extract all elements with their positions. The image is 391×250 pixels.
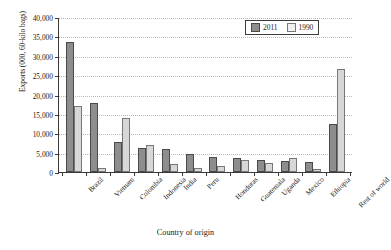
y-axis-tick	[55, 134, 59, 135]
x-axis-label-peru: Peru	[205, 175, 221, 191]
y-axis-tick-label: 40,000	[33, 14, 53, 23]
bar-1990-rest-of-world[interactable]	[337, 69, 345, 172]
bar-group	[86, 18, 110, 172]
bar-group	[301, 18, 325, 172]
bar-2011-indonesia[interactable]	[138, 148, 146, 172]
y-axis-tick-label: 5,000	[36, 149, 53, 158]
y-axis-tick	[55, 154, 59, 155]
bar-group	[110, 18, 134, 172]
bar-1990-guatemala[interactable]	[241, 160, 249, 172]
x-axis-label-honduras: Honduras	[233, 175, 259, 201]
bar-1990-colombia[interactable]	[122, 118, 130, 172]
y-axis-tick-label: 0	[49, 169, 53, 178]
legend-swatch-1990-icon	[287, 23, 296, 32]
bar-1990-brazil[interactable]	[74, 106, 82, 172]
legend-label-2011: 2011	[263, 23, 278, 32]
y-axis-tick-label: 25,000	[33, 72, 53, 81]
bar-1990-indonesia[interactable]	[146, 145, 154, 172]
x-axis-title: Country of origin	[0, 228, 371, 237]
bar-1990-mexico[interactable]	[289, 158, 297, 172]
y-axis-tick-label: 30,000	[33, 52, 53, 61]
bar-groups	[59, 18, 352, 172]
bar-2011-india[interactable]	[162, 149, 170, 172]
y-axis-tick	[55, 173, 59, 174]
legend-item-2011[interactable]: 2011	[251, 23, 278, 32]
bar-group	[253, 18, 277, 172]
bar-group	[134, 18, 158, 172]
x-axis-label-mexico: Mexico	[304, 175, 326, 197]
legend-swatch-2011-icon	[251, 23, 260, 32]
legend-item-1990[interactable]: 1990	[287, 23, 314, 32]
y-axis-tick	[55, 115, 59, 116]
bar-group	[158, 18, 182, 172]
bar-2011-honduras[interactable]	[209, 157, 217, 172]
legend-label-1990: 1990	[299, 23, 314, 32]
plot-area: 05,00010,00015,00020,00025,00030,00035,0…	[58, 18, 352, 173]
bar-group	[62, 18, 86, 172]
x-axis-label-vietnam: Vietnam	[112, 175, 136, 199]
bar-2011-brazil[interactable]	[66, 42, 74, 172]
x-axis-label-ethiopia: Ethiopia	[328, 175, 352, 199]
y-axis-title: Exports (000, 60-kilo bags)	[18, 0, 27, 118]
y-axis-tick	[55, 18, 59, 19]
y-axis-tick	[55, 96, 59, 97]
bar-2011-rest-of-world[interactable]	[329, 124, 337, 172]
bar-group	[325, 18, 349, 172]
x-axis-label-colombia: Colombia	[137, 175, 164, 202]
chart-legend: 2011 1990	[245, 20, 319, 35]
x-axis-label-brazil: Brazil	[86, 175, 105, 194]
bar-2011-guatemala[interactable]	[233, 158, 241, 172]
y-axis-tick	[55, 57, 59, 58]
bar-2011-vietnam[interactable]	[90, 103, 98, 172]
y-axis-tick	[55, 37, 59, 38]
bar-2011-colombia[interactable]	[114, 142, 122, 172]
bar-2011-ethiopia[interactable]	[305, 162, 313, 172]
x-axis-labels: BrazilVietnamColombiaIndonesiaIndiaPeruH…	[58, 175, 352, 220]
y-axis-tick-label: 15,000	[33, 110, 53, 119]
y-axis-tick-label: 10,000	[33, 130, 53, 139]
bar-group	[229, 18, 253, 172]
bar-2011-mexico[interactable]	[281, 161, 289, 172]
x-axis-label-rest-of-world: Rest of world	[357, 175, 391, 209]
bar-1990-uganda[interactable]	[265, 163, 273, 172]
bar-2011-peru[interactable]	[186, 154, 194, 172]
bar-group	[206, 18, 230, 172]
bar-group	[277, 18, 301, 172]
y-axis-tick-label: 35,000	[33, 33, 53, 42]
bar-1990-india[interactable]	[170, 164, 178, 172]
y-axis-tick-label: 20,000	[33, 91, 53, 100]
y-axis-tick	[55, 76, 59, 77]
bar-2011-uganda[interactable]	[257, 160, 265, 172]
bar-group	[182, 18, 206, 172]
